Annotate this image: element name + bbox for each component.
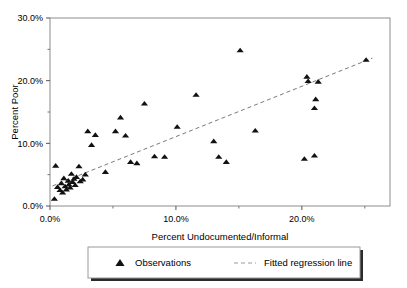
x-tick-label: 20.0% — [289, 214, 315, 224]
x-axis-title: Percent Undocumented/Informal — [152, 231, 289, 242]
y-axis-title: Percent Poor — [9, 84, 20, 139]
legend-label-fitted-regression-line: Fitted regression line — [264, 257, 352, 268]
y-tick-label: 0.0% — [22, 201, 43, 211]
legend: Observations Fitted regression line — [88, 247, 363, 281]
y-axis: 0.0%10.0%20.0%30.0% — [17, 13, 50, 211]
x-tick-label: 10.0% — [163, 214, 189, 224]
chart-container: 0.0%10.0%20.0%30.0% 0.0%10.0%20.0% Perce… — [0, 0, 407, 288]
scatter-plot-figure: 0.0%10.0%20.0%30.0% 0.0%10.0%20.0% Perce… — [0, 0, 407, 288]
x-axis: 0.0%10.0%20.0% — [40, 206, 365, 224]
plot-area-border — [50, 18, 390, 206]
x-tick-label: 0.0% — [40, 214, 61, 224]
y-tick-label: 10.0% — [17, 139, 43, 149]
plot-frame — [50, 18, 390, 206]
legend-label-observations: Observations — [135, 257, 191, 268]
y-tick-label: 20.0% — [17, 76, 43, 86]
y-tick-label: 30.0% — [17, 13, 43, 23]
